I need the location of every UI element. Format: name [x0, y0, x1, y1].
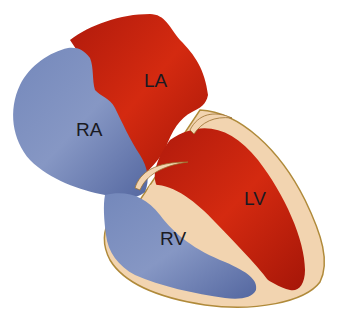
label-left-ventricle: LV	[244, 188, 266, 209]
label-left-atrium: LA	[144, 70, 168, 91]
label-right-ventricle: RV	[160, 228, 186, 249]
label-right-atrium: RA	[76, 119, 103, 140]
heart-diagram: RA LA RV LV	[0, 0, 340, 321]
